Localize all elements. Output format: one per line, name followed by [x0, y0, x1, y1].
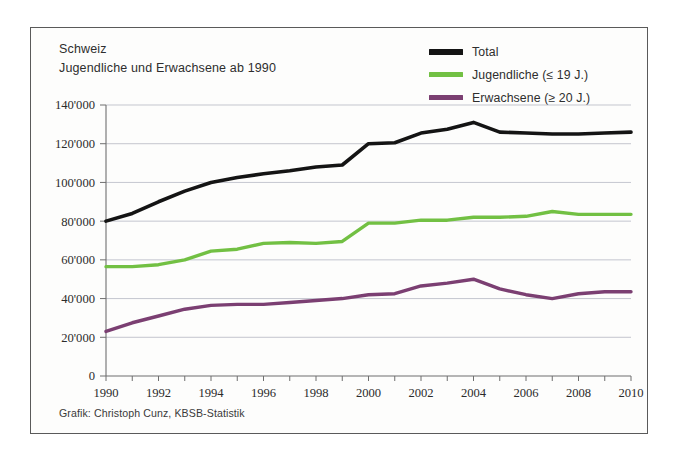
y-axis-label: 40'000 — [61, 292, 95, 306]
x-axis-label: 1998 — [303, 386, 328, 400]
x-axis-label: 1994 — [198, 386, 224, 400]
series-line-total — [106, 122, 631, 221]
y-axis-label: 60'000 — [61, 253, 95, 267]
x-axis-label: 2004 — [461, 386, 487, 400]
x-axis-label: 2008 — [566, 386, 591, 400]
y-axis-label: 140'000 — [55, 98, 95, 112]
y-axis-label: 20'000 — [61, 331, 95, 345]
x-axis-label: 2002 — [408, 386, 433, 400]
y-axis-label: 0 — [89, 369, 95, 383]
x-axis-label: 2006 — [513, 386, 538, 400]
plot-area: 020'00040'00060'00080'000100'000120'0001… — [31, 28, 649, 435]
x-axis-label: 1990 — [93, 386, 118, 400]
chart-credit: Grafik: Christoph Cunz, KBSB-Statistik — [59, 407, 245, 419]
y-axis-label: 80'000 — [61, 215, 95, 229]
series-line-jugendliche-19-j — [106, 211, 631, 266]
chart-svg: 020'00040'00060'00080'000100'000120'0001… — [31, 28, 649, 435]
y-axis-label: 120'000 — [55, 137, 95, 151]
x-axis-label: 2000 — [356, 386, 381, 400]
y-axis-label: 100'000 — [55, 176, 95, 190]
x-axis-label: 1996 — [251, 386, 276, 400]
x-axis-label: 1992 — [146, 386, 171, 400]
chart-page: Schweiz Jugendliche und Erwachsene ab 19… — [0, 0, 679, 453]
x-axis-label: 2010 — [618, 386, 643, 400]
chart-frame: Schweiz Jugendliche und Erwachsene ab 19… — [30, 27, 648, 434]
series-line-erwachsene-20-j — [106, 279, 631, 331]
